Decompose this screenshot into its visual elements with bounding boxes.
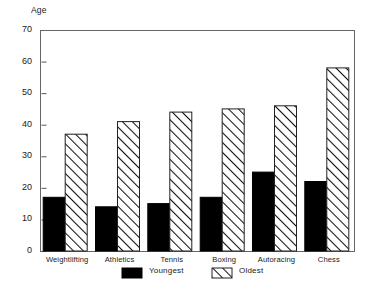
plot-area (0, 0, 370, 297)
y-axis-tick-label: 0 (12, 246, 32, 255)
y-axis-title: Age (31, 5, 47, 15)
legend-label: Oldest (239, 266, 263, 275)
bar (305, 182, 327, 252)
legend-swatches (0, 264, 370, 286)
y-axis-tick-label: 40 (12, 120, 32, 129)
bar (327, 68, 349, 251)
bar (118, 122, 140, 251)
bar (170, 112, 192, 251)
bar-chart: Age 010203040506070 WeightliftingAthleti… (0, 0, 370, 297)
x-axis-tick-label: Chess (284, 255, 370, 264)
bars-layer (43, 68, 349, 251)
bar (222, 109, 244, 251)
y-axis-tick-label: 50 (12, 88, 32, 97)
bar (65, 134, 87, 251)
bar (43, 197, 65, 251)
legend-label: Youngest (149, 266, 184, 275)
y-axis-tick-label: 20 (12, 183, 32, 192)
y-axis-tick-label: 30 (12, 151, 32, 160)
y-axis-tick-label: 10 (12, 214, 32, 223)
bar (148, 204, 170, 251)
bar (200, 197, 222, 251)
y-axis-tick-label: 70 (12, 25, 32, 34)
y-axis-tick-label: 60 (12, 57, 32, 66)
bar (96, 207, 118, 251)
bar (275, 106, 297, 251)
bar (253, 172, 275, 251)
legend-swatch (122, 268, 142, 278)
legend-swatch (212, 268, 232, 278)
